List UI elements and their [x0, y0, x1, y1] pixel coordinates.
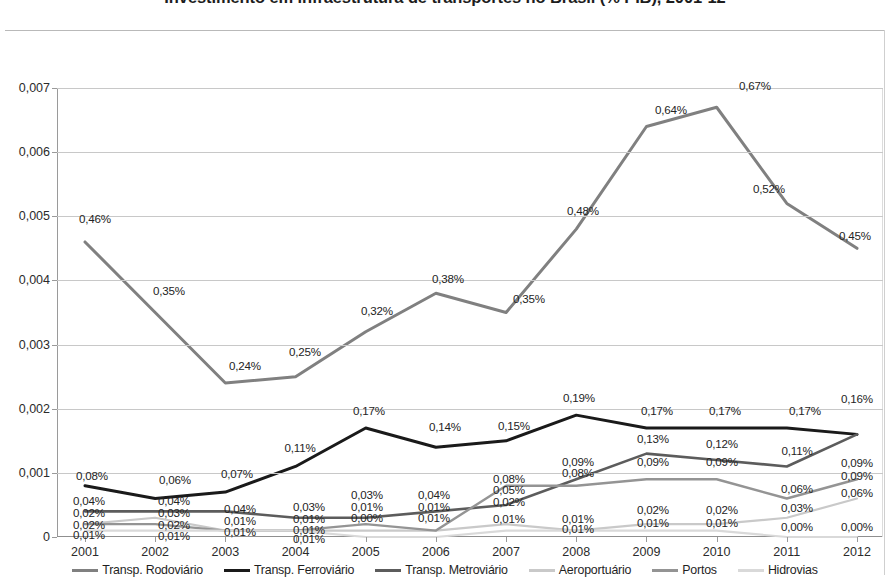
legend-color-swatch [224, 569, 250, 572]
x-axis-tick-label: 2010 [687, 545, 747, 559]
data-point-label: 0,67% [739, 79, 771, 92]
data-point-label: 0,00% [841, 520, 873, 533]
data-point-label: 0,46% [79, 212, 111, 225]
data-point-label: 0,09% [706, 455, 738, 468]
y-axis-tick-label: 0 [43, 530, 50, 544]
y-tick [52, 345, 57, 346]
x-axis-tick-label: 2003 [195, 545, 255, 559]
legend-color-swatch [738, 569, 764, 572]
gridline [57, 152, 883, 153]
data-point-label: 0,06% [841, 486, 873, 499]
legend-label: Transp. Metroviário [405, 563, 507, 577]
legend-item[interactable]: Transp. Ferroviário [224, 563, 354, 577]
x-tick [506, 537, 507, 542]
data-point-label: 0,06% [781, 482, 813, 495]
data-point-label: 0,11% [284, 441, 315, 454]
x-tick [857, 537, 858, 542]
legend-label: Aeroportuário [559, 563, 631, 577]
data-point-label: 0,03% [781, 501, 813, 514]
x-tick [366, 537, 367, 542]
data-point-label: 0,45% [839, 229, 871, 242]
x-tick [787, 537, 788, 542]
page-title: Investimento em infraestrutura de transp… [0, 0, 890, 7]
x-tick [576, 537, 577, 542]
legend-color-swatch [529, 569, 555, 572]
data-point-label: 0,38% [432, 272, 464, 285]
data-point-label: 0,48% [567, 204, 599, 217]
x-tick [646, 537, 647, 542]
x-tick [155, 537, 156, 542]
series-line [85, 107, 857, 383]
series-line [85, 531, 857, 537]
data-point-label: 0,01% [418, 511, 450, 524]
legend-item[interactable]: Aeroportuário [529, 563, 631, 577]
legend-item[interactable]: Transp. Rodoviário [72, 563, 203, 577]
legend-color-swatch [375, 569, 401, 572]
plot-area: 0,46%0,35%0,24%0,25%0,32%0,38%0,35%0,48%… [57, 88, 883, 537]
legend-color-swatch [72, 569, 98, 572]
data-point-label: 0,08% [493, 472, 525, 485]
legend-color-swatch [652, 569, 678, 572]
x-tick [436, 537, 437, 542]
data-point-label: 0,32% [361, 304, 393, 317]
data-point-label: 0,13% [637, 432, 669, 445]
y-axis-tick-label: 0,004 [19, 273, 50, 287]
x-tick [225, 537, 226, 542]
data-point-label: 0,01% [562, 522, 594, 535]
gridline [57, 409, 883, 410]
y-tick [52, 280, 57, 281]
data-point-label: 0,11% [781, 444, 812, 457]
data-point-label: 0,01% [706, 516, 738, 529]
y-tick [52, 88, 57, 89]
chart-page: Investimento em infraestrutura de transp… [0, 0, 890, 586]
data-point-label: 0,07% [221, 467, 253, 480]
y-axis-tick-label: 0,006 [19, 145, 50, 159]
y-axis-tick-label: 0,003 [19, 338, 50, 352]
y-tick [52, 537, 57, 538]
legend-item[interactable]: Portos [652, 563, 717, 577]
data-point-label: 0,09% [637, 455, 669, 468]
series-line [85, 499, 857, 531]
data-point-label: 0,52% [753, 182, 785, 195]
data-point-label: 0,09% [841, 469, 873, 482]
data-point-label: 0,16% [841, 392, 873, 405]
y-axis-tick-label: 0,005 [19, 209, 50, 223]
data-point-label: 0,01% [293, 532, 325, 545]
data-point-label: 0,01% [637, 516, 669, 529]
chart-legend: Transp. RodoviárioTransp. FerroviárioTra… [0, 563, 890, 577]
data-point-label: 0,00% [351, 511, 383, 524]
legend-label: Portos [682, 563, 717, 577]
legend-item[interactable]: Hidrovias [738, 563, 818, 577]
data-point-label: 0,02% [493, 495, 525, 508]
x-axis-tick-label: 2002 [125, 545, 185, 559]
x-axis-tick-label: 2001 [55, 545, 115, 559]
data-point-label: 0,02% [637, 503, 669, 516]
legend-item[interactable]: Transp. Metroviário [375, 563, 507, 577]
data-point-label: 0,19% [563, 391, 595, 404]
data-point-label: 0,01% [493, 512, 525, 525]
data-point-label: 0,35% [513, 292, 545, 305]
x-axis-tick-label: 2006 [406, 545, 466, 559]
legend-label: Transp. Ferroviário [254, 563, 354, 577]
y-axis-tick-label: 0,001 [19, 466, 50, 480]
data-point-label: 0,35% [153, 284, 185, 297]
data-point-label: 0,15% [498, 419, 530, 432]
data-point-label: 0,17% [353, 404, 385, 417]
data-point-label: 0,01% [73, 528, 105, 541]
data-point-label: 0,08% [76, 469, 108, 482]
right-rule [884, 30, 885, 575]
data-point-label: 0,17% [789, 404, 821, 417]
data-point-label: 0,24% [229, 359, 261, 372]
top-rule [5, 30, 884, 31]
x-axis-tick-label: 2009 [616, 545, 676, 559]
y-axis-tick-label: 0,007 [19, 81, 50, 95]
gridline [57, 216, 883, 217]
data-point-label: 0,64% [655, 103, 687, 116]
data-point-label: 0,12% [706, 437, 738, 450]
data-point-label: 0,02% [706, 503, 738, 516]
series-lines [57, 88, 883, 537]
y-axis-tick-label: 0,002 [19, 402, 50, 416]
x-axis-tick-label: 2007 [476, 545, 536, 559]
x-axis-tick-label: 2012 [827, 545, 887, 559]
gridline [57, 345, 883, 346]
